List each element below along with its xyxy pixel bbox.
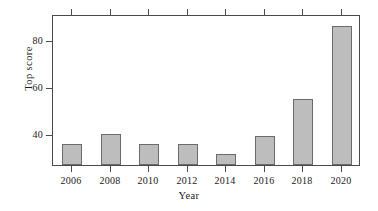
x-tick-2018: [302, 166, 303, 172]
x-tick-label-2014: 2014: [205, 175, 245, 186]
bar-2016: [255, 136, 275, 165]
x-tick-label-2018: 2018: [282, 175, 322, 186]
top-tick-2006: [71, 9, 72, 15]
bar-2006: [62, 144, 82, 165]
top-tick-2010: [148, 9, 149, 15]
x-tick-label-2012: 2012: [167, 175, 207, 186]
top-tick-2012: [187, 9, 188, 15]
x-tick-2006: [71, 166, 72, 172]
x-tick-label-2006: 2006: [51, 175, 91, 186]
top-tick-2018: [302, 9, 303, 15]
plot-area: [52, 15, 360, 166]
bar-2020: [332, 26, 352, 165]
bar-2010: [139, 144, 159, 165]
bar-2014: [216, 154, 236, 165]
bars-layer: [53, 16, 359, 165]
x-axis-title: Year: [0, 190, 378, 201]
top-tick-2008: [110, 9, 111, 15]
y-axis-title: Top score: [23, 19, 34, 119]
top-tick-2020: [341, 9, 342, 15]
x-tick-2016: [264, 166, 265, 172]
y-tick-label-60: 60: [33, 83, 43, 93]
x-tick-2008: [110, 166, 111, 172]
x-tick-2012: [187, 166, 188, 172]
x-tick-label-2010: 2010: [128, 175, 168, 186]
x-tick-2014: [225, 166, 226, 172]
x-tick-label-2020: 2020: [321, 175, 361, 186]
bar-2008: [101, 134, 121, 165]
bar-2018: [293, 99, 313, 165]
x-tick-2020: [341, 166, 342, 172]
y-tick-label-80: 80: [33, 36, 43, 46]
bar-2012: [178, 144, 198, 165]
top-tick-2016: [264, 9, 265, 15]
x-tick-2010: [148, 166, 149, 172]
top-tick-2014: [225, 9, 226, 15]
bar-chart-figure: Top score 406080 20062008201020122014201…: [0, 0, 378, 211]
y-tick-label-40: 40: [33, 130, 43, 140]
x-tick-label-2008: 2008: [90, 175, 130, 186]
x-tick-label-2016: 2016: [244, 175, 284, 186]
